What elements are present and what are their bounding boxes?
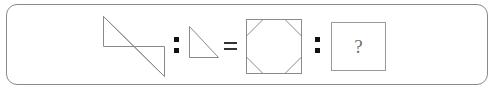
colon-dot-bottom	[174, 48, 179, 53]
analogy-puzzle: Z-shaped figure of two joined right tria…	[0, 0, 496, 92]
corner-cut-top-left	[247, 20, 264, 37]
corner-cut-bottom-left	[247, 57, 264, 74]
analogy-row: Z-shaped figure of two joined right tria…	[0, 0, 496, 92]
ratio-colon-2: :	[315, 37, 320, 53]
equals-bar-bottom	[224, 48, 237, 50]
colon-dot-top	[174, 37, 179, 42]
corner-cut-bottom-right	[285, 57, 302, 74]
question-mark: ?	[332, 23, 385, 70]
right-triangle-figure: Right triangle	[187, 24, 221, 62]
octagon-in-square-label: Square with cut corners forming an octag…	[244, 76, 245, 77]
answer-box[interactable]: ?	[331, 22, 386, 71]
colon-dot-top	[315, 37, 320, 42]
z-shape-label: Z-shaped figure of two joined right tria…	[101, 78, 102, 79]
right-triangle-path	[190, 27, 219, 58]
right-triangle-label: Right triangle	[187, 62, 188, 63]
ratio-colon-1: :	[174, 37, 179, 53]
colon-dot-bottom	[315, 48, 320, 53]
equals-bar-top	[224, 42, 237, 44]
corner-cut-top-right	[285, 20, 302, 37]
z-shape-double-triangle-figure: Z-shaped figure of two joined right tria…	[101, 14, 167, 78]
equals-sign: =	[224, 42, 237, 50]
octagon-in-square-figure: Square with cut corners forming an octag…	[244, 17, 304, 76]
